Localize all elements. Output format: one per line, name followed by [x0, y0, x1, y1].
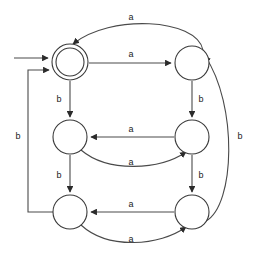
edge-label-q5-q1: b: [237, 131, 242, 141]
transition-q5-q1-b: b: [205, 56, 243, 221]
transition-q3-q2-a: a: [91, 124, 174, 137]
edge-label-q3-q5: b: [198, 170, 203, 180]
state-q3[interactable]: [175, 120, 209, 154]
edge-label-q0-q1: a: [128, 49, 133, 59]
state-q4-circle[interactable]: [53, 195, 87, 229]
edge-label-q5-q4: a: [128, 199, 133, 209]
state-q2[interactable]: [53, 120, 87, 154]
transition-q4-q5-a: a: [81, 225, 186, 244]
edge-label-q2-q4: b: [56, 170, 61, 180]
edge-label-q4-q0: b: [15, 131, 20, 141]
state-q5[interactable]: [175, 195, 209, 229]
state-q1-circle[interactable]: [175, 46, 209, 80]
edge-label-q2-q3: a: [128, 157, 133, 167]
state-q1[interactable]: [175, 46, 209, 80]
edge-label-q1-q3: b: [198, 94, 203, 104]
transition-q2-q3-a: a: [81, 150, 186, 167]
transition-q2-q4-b: b: [56, 155, 70, 192]
edge-label-q3-q2: a: [128, 124, 133, 134]
edge-label-q4-q5: a: [128, 234, 133, 244]
transition-q0-q1-a: a: [89, 49, 171, 63]
state-q4[interactable]: [53, 195, 87, 229]
transition-q3-q5-b: b: [192, 155, 204, 192]
transition-q0-q2-b: b: [56, 81, 70, 117]
transition-q5-q4-a: a: [91, 199, 174, 212]
automaton-canvas: b a a b b b a: [0, 0, 257, 262]
state-q0-accepting-inner-circle: [56, 48, 84, 76]
transition-q4-q0-b: b: [15, 70, 53, 212]
transition-q1-q3-b: b: [192, 81, 204, 117]
edge-label-q1-q0: a: [128, 12, 133, 22]
edge-label-q0-q2: b: [56, 94, 61, 104]
transition-q1-q0-a: a: [73, 12, 203, 50]
state-machine-diagram: b a a b b b a: [0, 0, 257, 262]
state-q2-circle[interactable]: [53, 120, 87, 154]
state-q0[interactable]: [52, 44, 88, 80]
state-q5-circle[interactable]: [175, 195, 209, 229]
state-q3-circle[interactable]: [175, 120, 209, 154]
